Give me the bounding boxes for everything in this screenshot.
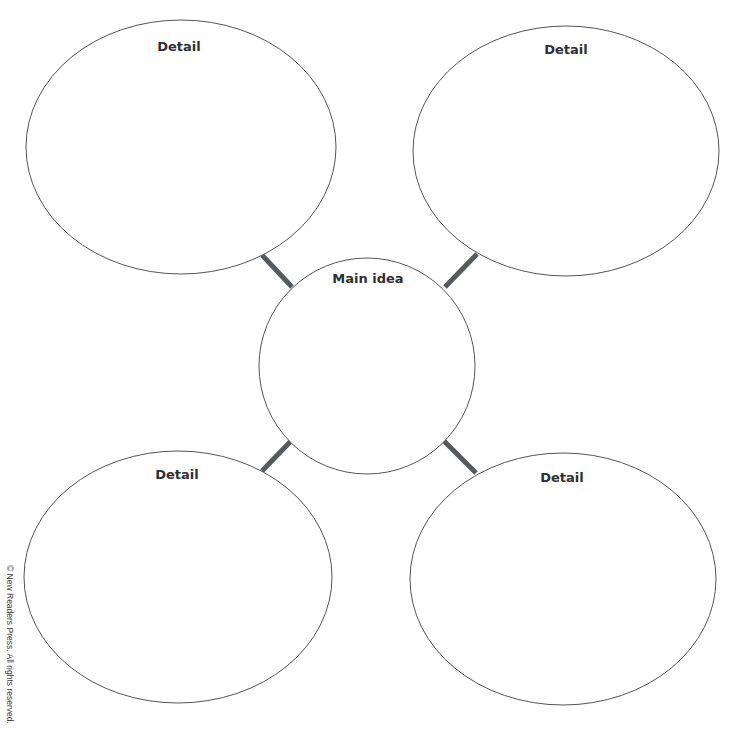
graphic-organizer: Detail Detail Detail Detail Main idea [0, 0, 737, 730]
connector-bottom-right [444, 441, 476, 473]
main-idea-bubble[interactable] [259, 258, 475, 474]
copyright-text: © New Readers Press. All rights reserved… [5, 565, 15, 724]
detail-bubble-bottom-left[interactable] [24, 451, 332, 703]
detail-label-bottom-right: Detail [540, 470, 584, 485]
connector-top-left [262, 255, 292, 287]
detail-bubble-top-right[interactable] [413, 26, 719, 276]
detail-label-bottom-left: Detail [155, 467, 199, 482]
detail-label-top-left: Detail [157, 39, 201, 54]
connector-top-right [445, 254, 477, 287]
copyright-notice: © New Readers Press. All rights reserved… [2, 565, 16, 715]
detail-bubble-bottom-right[interactable] [410, 453, 716, 705]
main-idea-label: Main idea [332, 271, 403, 286]
detail-bubble-top-left[interactable] [26, 20, 336, 274]
detail-label-top-right: Detail [544, 42, 588, 57]
connector-bottom-left [262, 441, 291, 471]
